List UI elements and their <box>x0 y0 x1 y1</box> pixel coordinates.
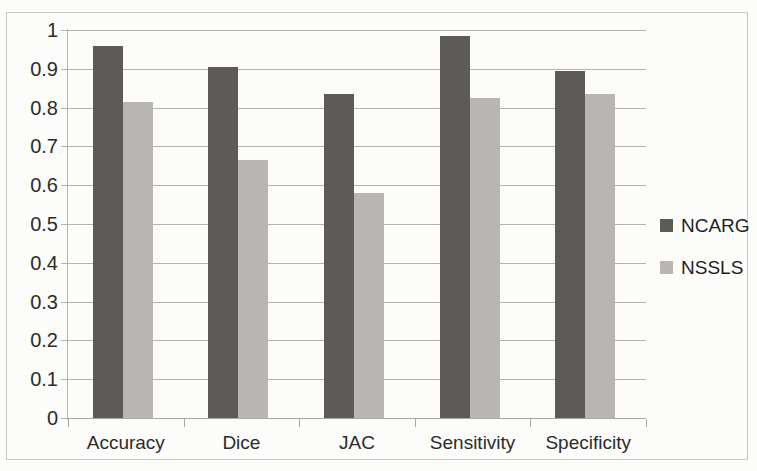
y-axis-tick-label: 0.5 <box>2 214 58 234</box>
x-axis-category-label: Dice <box>184 433 300 452</box>
x-axis-tick <box>646 419 647 427</box>
legend-item-ncarg: NCARG <box>660 215 752 235</box>
y-axis-tick-label: 0.3 <box>2 292 58 312</box>
y-axis-tick <box>61 340 68 341</box>
bar-group <box>555 30 615 418</box>
x-axis-tick <box>415 419 416 427</box>
plot-area <box>68 30 646 418</box>
x-axis-category-label: Specificity <box>530 433 646 452</box>
x-axis-category-label: JAC <box>299 433 415 452</box>
bar-nssls-sensitivity <box>470 98 500 418</box>
x-axis-tick <box>299 419 300 427</box>
bar-nssls-dice <box>238 160 268 418</box>
y-axis-tick <box>61 69 68 70</box>
legend-swatch-icon <box>660 219 673 232</box>
x-axis-category-label: Sensitivity <box>415 433 531 452</box>
bar-ncarg-sensitivity <box>440 36 470 418</box>
y-axis-tick-label: 0.7 <box>2 136 58 156</box>
bar-group <box>440 30 500 418</box>
bar-ncarg-accuracy <box>93 46 123 418</box>
bar-nssls-specificity <box>585 94 615 418</box>
y-axis-tick-label: 0.9 <box>2 59 58 79</box>
bar-chart-figure: 10.90.80.70.60.50.40.30.20.10 NCARGNSSLS… <box>0 0 757 471</box>
legend-swatch-icon <box>660 261 673 274</box>
y-axis-tick <box>61 30 68 31</box>
y-axis-tick <box>61 108 68 109</box>
bar-group <box>324 30 384 418</box>
legend-item-nssls: NSSLS <box>660 257 752 277</box>
bar-ncarg-specificity <box>555 71 585 418</box>
y-axis-tick <box>61 263 68 264</box>
bar-group <box>208 30 268 418</box>
x-axis-category-label: Accuracy <box>68 433 184 452</box>
y-axis-labels: 10.90.80.70.60.50.40.30.20.10 <box>0 0 58 471</box>
bar-group <box>93 30 153 418</box>
chart-legend: NCARGNSSLS <box>660 215 752 299</box>
y-axis-tick <box>61 224 68 225</box>
x-axis-tick <box>530 419 531 427</box>
y-axis-tick-label: 0.8 <box>2 98 58 118</box>
x-axis-tick <box>184 419 185 427</box>
y-axis-tick-label: 0 <box>2 408 58 428</box>
bar-nssls-jac <box>354 193 384 418</box>
y-axis-tick-label: 0.4 <box>2 253 58 273</box>
y-axis-tick <box>61 302 68 303</box>
y-axis-tick-label: 1 <box>2 20 58 40</box>
bar-ncarg-jac <box>324 94 354 418</box>
y-axis-tick <box>61 379 68 380</box>
y-axis-tick <box>61 146 68 147</box>
y-axis-tick <box>61 418 68 419</box>
bar-ncarg-dice <box>208 67 238 418</box>
x-axis-line <box>68 418 646 419</box>
legend-label: NSSLS <box>681 258 743 277</box>
bar-nssls-accuracy <box>123 102 153 418</box>
y-axis-tick-label: 0.2 <box>2 330 58 350</box>
x-axis-tick <box>68 419 69 427</box>
y-axis-tick-label: 0.6 <box>2 175 58 195</box>
legend-label: NCARG <box>681 216 750 235</box>
y-axis-tick <box>61 185 68 186</box>
y-axis-tick-label: 0.1 <box>2 369 58 389</box>
